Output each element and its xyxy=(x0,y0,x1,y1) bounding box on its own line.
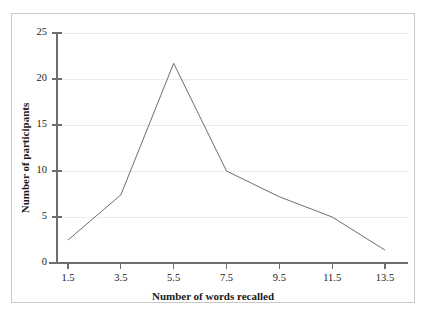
y-axis-title: Number of participants xyxy=(19,53,31,263)
line-chart: 0510152025 1.53.55.57.59.511.513.5 Numbe… xyxy=(0,0,426,317)
figure-container: 0510152025 1.53.55.57.59.511.513.5 Numbe… xyxy=(0,0,426,317)
x-tick-label-1.5: 1.5 xyxy=(48,272,88,283)
x-tick-label-7.5: 7.5 xyxy=(207,272,247,283)
y-tick-label-25: 25 xyxy=(23,26,47,37)
x-tick-label-3.5: 3.5 xyxy=(101,272,141,283)
x-tick-label-13.5: 13.5 xyxy=(365,272,405,283)
gridline-group xyxy=(57,33,408,217)
tick-mark-group xyxy=(52,33,385,269)
x-tick-label-11.5: 11.5 xyxy=(312,272,352,283)
x-axis-title: Number of words recalled xyxy=(0,290,426,302)
data-series-group xyxy=(68,63,385,250)
chart-svg xyxy=(0,0,426,317)
axis-line-group xyxy=(49,33,408,263)
x-tick-label-9.5: 9.5 xyxy=(259,272,299,283)
x-tick-label-5.5: 5.5 xyxy=(154,272,194,283)
data-line xyxy=(68,63,385,250)
